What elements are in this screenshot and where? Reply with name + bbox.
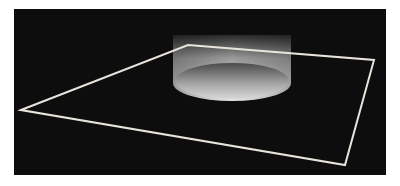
- scene-svg: [14, 9, 386, 175]
- cylinder-bottom-face: [175, 63, 289, 99]
- 3d-viewport: [14, 9, 386, 175]
